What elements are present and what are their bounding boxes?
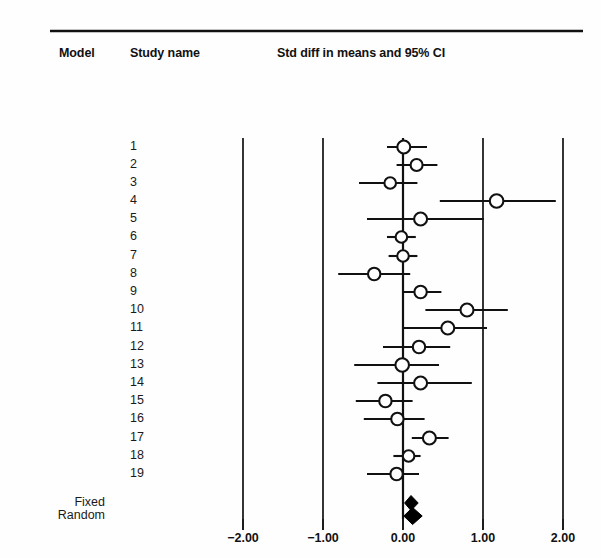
study-row-5	[367, 213, 484, 226]
tick-label-1: 1.00	[471, 531, 495, 545]
study-name-15: 15	[130, 393, 144, 407]
study-row-11	[403, 322, 487, 335]
effect-marker-circle	[379, 395, 391, 407]
effect-marker-circle	[490, 194, 504, 208]
summary-diamond-random	[404, 508, 422, 525]
effect-marker-circle	[461, 304, 474, 317]
study-name-16: 16	[130, 411, 144, 425]
study-name-12: 12	[130, 339, 144, 353]
study-name-9: 9	[130, 284, 137, 298]
model-label-random: Random	[20, 508, 105, 522]
effect-marker-circle	[423, 432, 436, 445]
effect-marker-circle	[384, 177, 396, 189]
study-name-1: 1	[130, 139, 137, 153]
study-row-1	[387, 141, 427, 154]
study-name-10: 10	[130, 302, 144, 316]
study-row-16	[364, 413, 425, 425]
column-header-model: Model	[59, 46, 95, 60]
study-row-3	[359, 177, 417, 189]
study-row-18	[393, 450, 420, 462]
study-row-13	[354, 358, 439, 372]
study-row-7	[389, 250, 418, 262]
forest-plot-canvas	[0, 0, 601, 558]
effect-marker-circle	[397, 250, 409, 262]
tick-label-0: 0.00	[391, 531, 415, 545]
study-row-9	[403, 286, 441, 298]
study-row-14	[377, 377, 471, 390]
effect-marker-circle	[411, 159, 423, 171]
effect-marker-circle	[395, 358, 409, 372]
tick-label-2: 2.00	[551, 531, 575, 545]
effect-marker-circle	[441, 322, 454, 335]
study-row-8	[338, 268, 410, 280]
effect-marker-circle	[368, 268, 380, 280]
model-label-fixed: Fixed	[20, 495, 105, 509]
column-header-study-name: Study name	[130, 46, 200, 60]
effect-marker-circle	[396, 231, 408, 243]
column-header-effect: Std diff in means and 95% CI	[277, 46, 445, 60]
effect-marker-circle	[403, 450, 415, 462]
tick-label--2: −2.00	[227, 531, 259, 545]
effect-marker-circle	[390, 468, 402, 480]
study-name-14: 14	[130, 375, 144, 389]
tick-label--1: −1.00	[307, 531, 339, 545]
axis-ticks	[243, 519, 563, 530]
study-row-17	[412, 432, 449, 445]
study-name-3: 3	[130, 175, 137, 189]
study-row-19	[367, 468, 419, 480]
study-name-5: 5	[130, 211, 137, 225]
effect-marker-circle	[413, 341, 425, 353]
study-name-6: 6	[130, 229, 137, 243]
study-name-11: 11	[130, 320, 143, 334]
study-name-7: 7	[130, 248, 137, 262]
study-row-10	[425, 304, 507, 317]
study-rows	[338, 141, 556, 481]
study-name-19: 19	[130, 466, 144, 480]
study-name-8: 8	[130, 266, 137, 280]
effect-marker-circle	[414, 377, 427, 390]
study-row-4	[440, 194, 556, 208]
effect-marker-circle	[414, 213, 427, 226]
study-name-13: 13	[130, 357, 144, 371]
study-row-6	[387, 231, 416, 243]
study-name-2: 2	[130, 157, 137, 171]
summary-diamonds	[404, 496, 422, 525]
study-name-4: 4	[130, 193, 137, 207]
study-name-17: 17	[130, 430, 144, 444]
effect-marker-circle	[391, 413, 403, 425]
effect-marker-circle	[414, 286, 426, 298]
effect-marker-circle	[397, 141, 410, 154]
study-name-18: 18	[130, 448, 144, 462]
study-row-12	[383, 341, 450, 353]
